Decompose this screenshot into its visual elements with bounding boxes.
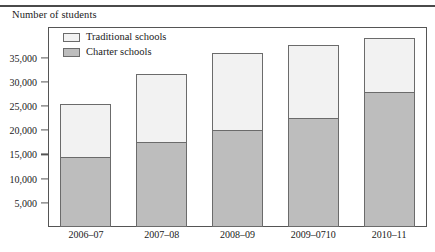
bar-group[interactable] xyxy=(136,74,187,227)
bar-group[interactable] xyxy=(60,104,111,227)
bar-segment-traditional-schools[interactable] xyxy=(60,104,111,158)
bar-segment-traditional-schools[interactable] xyxy=(364,38,415,92)
y-axis-tick-label: 10,000 xyxy=(10,173,38,184)
bar-segment-charter-schools[interactable] xyxy=(60,157,111,227)
bar-group[interactable] xyxy=(288,45,339,227)
legend-swatch-icon xyxy=(63,33,80,42)
legend-item[interactable]: Traditional schools xyxy=(63,31,166,44)
y-axis-tick-label: 25,000 xyxy=(10,100,38,111)
bar-group[interactable] xyxy=(364,38,415,227)
top-divider-rule xyxy=(0,5,435,7)
bar-segment-charter-schools[interactable] xyxy=(136,142,187,227)
x-axis-tick-label: 2007–08 xyxy=(144,229,179,240)
y-axis-tick-mark xyxy=(41,202,48,203)
x-axis-tick-label: 2009–0710 xyxy=(291,229,336,240)
chart-axis-title: Number of students xyxy=(12,9,97,20)
y-axis: 5,00010,00015,00020,00025,00030,00035,00… xyxy=(0,27,48,227)
y-axis-tick-mark xyxy=(41,57,48,58)
y-axis-tick-mark xyxy=(41,130,48,131)
legend-item-label: Traditional schools xyxy=(86,32,166,43)
legend-swatch-icon xyxy=(63,48,80,57)
y-axis-tick-label: 30,000 xyxy=(10,76,38,87)
y-axis-tick-label: 35,000 xyxy=(10,52,38,63)
bar-segment-charter-schools[interactable] xyxy=(364,91,415,227)
bar-segment-charter-schools[interactable] xyxy=(288,118,339,227)
y-axis-tick-label: 20,000 xyxy=(10,125,38,136)
x-axis-tick-label: 2010–11 xyxy=(372,229,407,240)
bar-segment-traditional-schools[interactable] xyxy=(212,53,263,132)
bar-segment-charter-schools[interactable] xyxy=(212,130,263,227)
legend-item-label: Charter schools xyxy=(86,47,152,58)
bar-segment-traditional-schools[interactable] xyxy=(136,74,187,143)
y-axis-tick-mark xyxy=(41,154,48,155)
y-axis-tick-mark xyxy=(41,178,48,179)
bar-group[interactable] xyxy=(212,53,263,227)
chart-legend: Traditional schoolsCharter schools xyxy=(63,31,166,59)
y-axis-tick-mark xyxy=(41,81,48,82)
y-axis-tick-label: 5,000 xyxy=(15,197,38,208)
y-axis-tick-label: 15,000 xyxy=(10,149,38,160)
x-axis-tick-label: 2008–09 xyxy=(220,229,255,240)
x-axis-tick-label: 2006–07 xyxy=(68,229,103,240)
y-axis-tick-mark xyxy=(41,105,48,106)
bar-segment-traditional-schools[interactable] xyxy=(288,45,339,119)
legend-item[interactable]: Charter schools xyxy=(63,46,166,59)
x-axis: 2006–072007–082008–092009–07102010–11 xyxy=(48,229,427,249)
